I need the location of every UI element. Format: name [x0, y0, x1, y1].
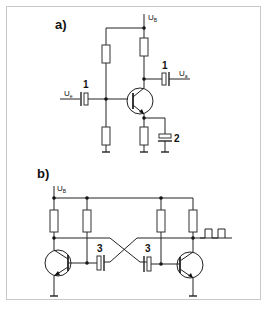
callout-3-right: 3 — [145, 243, 151, 254]
callout-3-left: 3 — [97, 243, 103, 254]
resistor-base-left — [83, 210, 91, 232]
capacitor-coupling-right — [147, 257, 151, 271]
square-wave-icon — [200, 229, 225, 238]
panel-a-label: a) — [55, 17, 67, 32]
circuit-diagrams: a) UB 1 Ua 1 Ue — [0, 0, 267, 309]
panel-a-output-label: Ua — [179, 69, 188, 79]
panel-b-supply-label: UB — [57, 184, 67, 194]
capacitor-bypass — [159, 134, 171, 138]
capacitor-coupling-left — [97, 256, 101, 270]
resistor-collector — [140, 38, 148, 56]
resistor-collector-right — [189, 210, 197, 232]
panel-b: b) UB 3 — [37, 166, 232, 296]
callout-2: 2 — [174, 133, 180, 144]
callout-1-output: 1 — [162, 60, 168, 71]
resistor-bias-top — [102, 45, 110, 63]
panel-a: a) UB 1 Ua 1 Ue — [55, 13, 190, 152]
resistor-bias-bottom — [102, 127, 110, 145]
capacitor-output — [162, 73, 166, 85]
transistor-right — [177, 252, 203, 278]
capacitor-input — [84, 93, 88, 105]
transistor-npn — [127, 88, 153, 114]
resistor-emitter — [140, 127, 148, 145]
panel-a-input-label: Ue — [64, 89, 73, 99]
resistor-base-right — [157, 210, 165, 232]
junction-dot — [104, 97, 108, 101]
resistor-collector-left — [50, 210, 58, 232]
callout-1-input: 1 — [83, 79, 89, 90]
panel-a-supply-label: UB — [148, 13, 158, 23]
transistor-left — [45, 250, 71, 276]
panel-b-label: b) — [37, 166, 49, 181]
